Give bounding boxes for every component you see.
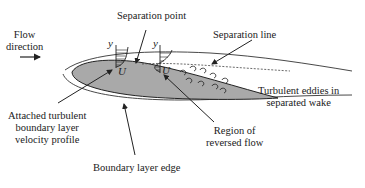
y-axis-symbol-2: y (153, 38, 158, 49)
attached-profile-line1: Attached turbulent (8, 110, 86, 122)
flow-direction-line2: direction (6, 41, 43, 53)
turbulent-eddies-line1: Turbulent eddies in (258, 85, 339, 97)
flow-direction-line1: Flow (6, 29, 43, 41)
reversed-flow-line2: reversed flow (206, 137, 263, 149)
flow-separation-diagram: Flow direction Separation point Separati… (0, 0, 365, 188)
u-axis-symbol-1: U (118, 66, 126, 77)
turbulent-eddies-label: Turbulent eddies in separated wake (258, 85, 339, 109)
separation-line-label: Separation line (213, 29, 276, 41)
airfoil-body (72, 60, 278, 99)
u-axis-symbol-2: U (162, 65, 170, 76)
reversed-flow-line1: Region of (206, 125, 263, 137)
turbulent-eddies-line2: separated wake (258, 97, 339, 109)
attached-profile-line3: velocity profile (8, 134, 86, 146)
attached-profile-label: Attached turbulent boundary layer veloci… (8, 110, 86, 146)
separation-point-label: Separation point (117, 10, 186, 22)
flow-direction-label: Flow direction (6, 29, 43, 53)
reversed-flow-label: Region of reversed flow (206, 125, 263, 149)
y-axis-symbol-1: y (108, 38, 113, 49)
boundary-layer-edge-label: Boundary layer edge (93, 162, 180, 174)
attached-profile-line2: boundary layer (8, 122, 86, 134)
